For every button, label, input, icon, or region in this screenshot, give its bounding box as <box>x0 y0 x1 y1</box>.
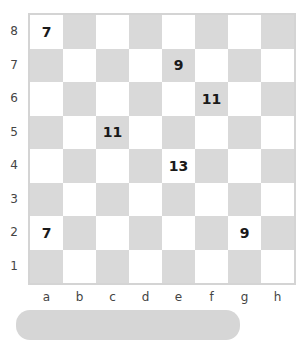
square-c5: 11 <box>96 116 129 150</box>
square-b2 <box>63 216 96 250</box>
rank-label-8: 8 <box>8 24 20 38</box>
square-b3 <box>63 183 96 217</box>
square-c3 <box>96 183 129 217</box>
square-g2: 9 <box>228 216 261 250</box>
square-a8: 7 <box>30 15 63 49</box>
rank-label-5: 5 <box>8 125 20 139</box>
rank-label-7: 7 <box>8 58 20 72</box>
square-f7 <box>195 49 228 83</box>
square-b7 <box>63 49 96 83</box>
square-value: 9 <box>240 225 250 241</box>
square-e1 <box>162 250 195 284</box>
square-g3 <box>228 183 261 217</box>
square-a5 <box>30 116 63 150</box>
square-b5 <box>63 116 96 150</box>
square-g1 <box>228 250 261 284</box>
square-h2 <box>261 216 294 250</box>
square-a6 <box>30 82 63 116</box>
file-label-f: f <box>195 290 228 304</box>
square-d2 <box>129 216 162 250</box>
square-value: 11 <box>103 124 122 140</box>
square-d5 <box>129 116 162 150</box>
rank-label-4: 4 <box>8 158 20 172</box>
square-d3 <box>129 183 162 217</box>
square-e7: 9 <box>162 49 195 83</box>
square-e4: 13 <box>162 149 195 183</box>
square-c8 <box>96 15 129 49</box>
square-a7 <box>30 49 63 83</box>
square-f3 <box>195 183 228 217</box>
square-f6: 11 <box>195 82 228 116</box>
bottom-panel <box>16 310 240 340</box>
rank-label-6: 6 <box>8 91 20 105</box>
square-f1 <box>195 250 228 284</box>
square-f4 <box>195 149 228 183</box>
square-b8 <box>63 15 96 49</box>
square-e8 <box>162 15 195 49</box>
square-a4 <box>30 149 63 183</box>
file-label-h: h <box>261 290 294 304</box>
square-d6 <box>129 82 162 116</box>
square-value: 13 <box>169 158 188 174</box>
square-a2: 7 <box>30 216 63 250</box>
square-d4 <box>129 149 162 183</box>
square-d8 <box>129 15 162 49</box>
square-e3 <box>162 183 195 217</box>
square-a1 <box>30 250 63 284</box>
file-label-a: a <box>30 290 63 304</box>
square-h3 <box>261 183 294 217</box>
square-value: 11 <box>202 91 221 107</box>
square-g4 <box>228 149 261 183</box>
square-h7 <box>261 49 294 83</box>
square-f5 <box>195 116 228 150</box>
square-h1 <box>261 250 294 284</box>
square-g7 <box>228 49 261 83</box>
square-h8 <box>261 15 294 49</box>
square-g6 <box>228 82 261 116</box>
square-c2 <box>96 216 129 250</box>
square-b4 <box>63 149 96 183</box>
square-c4 <box>96 149 129 183</box>
file-label-g: g <box>228 290 261 304</box>
square-value: 7 <box>42 24 52 40</box>
chessboard: 7911111379 <box>28 13 296 285</box>
square-value: 9 <box>174 57 184 73</box>
square-e2 <box>162 216 195 250</box>
square-b6 <box>63 82 96 116</box>
square-g5 <box>228 116 261 150</box>
square-e5 <box>162 116 195 150</box>
square-e6 <box>162 82 195 116</box>
square-a3 <box>30 183 63 217</box>
square-h4 <box>261 149 294 183</box>
square-f8 <box>195 15 228 49</box>
rank-label-1: 1 <box>8 259 20 273</box>
rank-label-3: 3 <box>8 192 20 206</box>
square-d7 <box>129 49 162 83</box>
square-h5 <box>261 116 294 150</box>
file-label-d: d <box>129 290 162 304</box>
square-h6 <box>261 82 294 116</box>
square-g8 <box>228 15 261 49</box>
file-label-e: e <box>162 290 195 304</box>
square-c1 <box>96 250 129 284</box>
square-value: 7 <box>42 225 52 241</box>
square-b1 <box>63 250 96 284</box>
square-d1 <box>129 250 162 284</box>
square-c7 <box>96 49 129 83</box>
file-label-c: c <box>96 290 129 304</box>
square-c6 <box>96 82 129 116</box>
square-f2 <box>195 216 228 250</box>
rank-label-2: 2 <box>8 225 20 239</box>
file-label-b: b <box>63 290 96 304</box>
